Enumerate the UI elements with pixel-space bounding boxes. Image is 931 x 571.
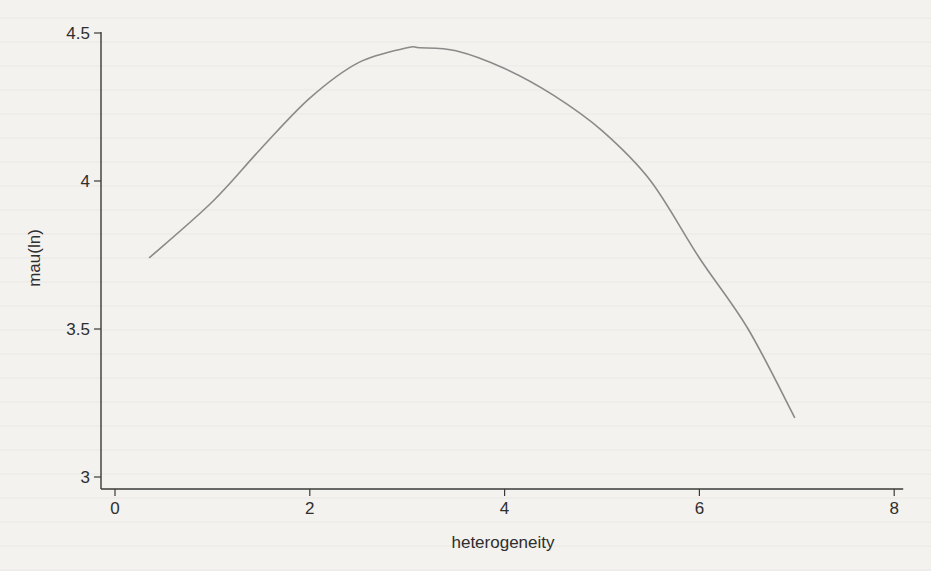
y-tick-label: 4.5 <box>66 24 90 43</box>
y-axis-title: mau(ln) <box>25 229 44 287</box>
fitted-curve <box>149 47 795 418</box>
x-tick-label: 8 <box>889 499 898 518</box>
x-axis-title: heterogeneity <box>451 533 555 552</box>
x-tick-label: 0 <box>110 499 119 518</box>
y-tick-label: 3 <box>81 468 90 487</box>
chart-canvas: 33.544.5 02468 mau(ln) heterogeneity <box>0 0 931 571</box>
y-axis: 33.544.5 <box>66 24 101 489</box>
x-axis: 02468 <box>101 489 903 518</box>
y-tick-label: 3.5 <box>66 320 90 339</box>
x-tick-label: 2 <box>305 499 314 518</box>
y-tick-label: 4 <box>81 172 90 191</box>
x-tick-label: 6 <box>695 499 704 518</box>
x-tick-label: 4 <box>500 499 509 518</box>
